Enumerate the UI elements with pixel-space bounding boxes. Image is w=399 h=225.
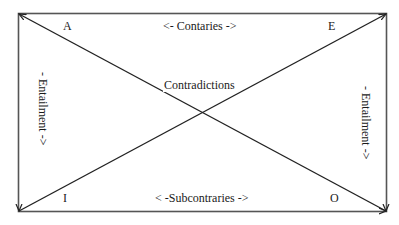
right-edge-label: - Entailment -> — [359, 86, 373, 159]
corner-o-label: O — [330, 191, 339, 205]
left-edge-label: - Entailment -> — [36, 72, 50, 145]
corner-i-label: I — [63, 191, 67, 205]
corner-e-label: E — [328, 19, 335, 33]
top-edge-label: <- Contaries -> — [163, 19, 237, 33]
bottom-edge-label: < -Subcontraries -> — [155, 191, 249, 205]
center-label: Contradictions — [163, 78, 236, 92]
corner-a-label: A — [63, 19, 72, 33]
